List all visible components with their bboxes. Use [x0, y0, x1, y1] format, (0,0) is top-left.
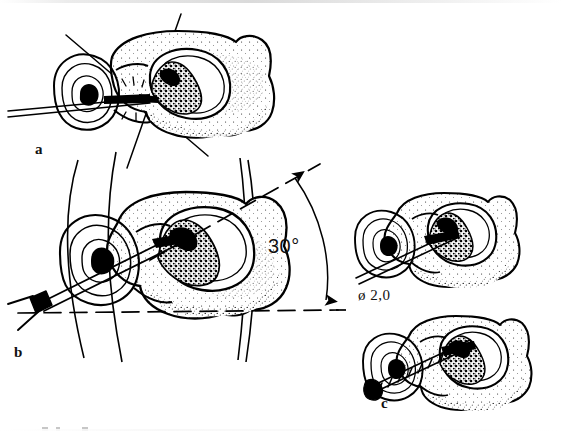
- panel-c-upper-illustration: [355, 193, 519, 288]
- panel-b-illustration: [8, 152, 338, 362]
- panel-label-c: c: [381, 396, 388, 411]
- panel-label-a: a: [35, 142, 43, 157]
- panel-a-illustration: [8, 14, 274, 168]
- panel-c-lower-illustration: [363, 316, 531, 411]
- panel-label-b: b: [14, 345, 22, 360]
- diameter-annotation: ø 2,0: [358, 288, 391, 303]
- figure-root: a b c 30° ø 2,0: [0, 0, 561, 431]
- angle-annotation: 30°: [268, 236, 300, 256]
- figure-illustration: [0, 0, 561, 431]
